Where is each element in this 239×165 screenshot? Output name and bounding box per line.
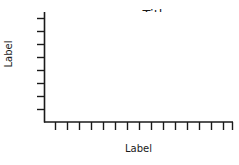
y-axis-label: Label [3,29,15,79]
x-axis-label: Label [44,143,233,155]
x-axis-ticks [56,122,233,130]
chart-axes [0,0,239,165]
chart-container: Title [0,0,239,165]
y-axis-ticks [37,19,44,110]
